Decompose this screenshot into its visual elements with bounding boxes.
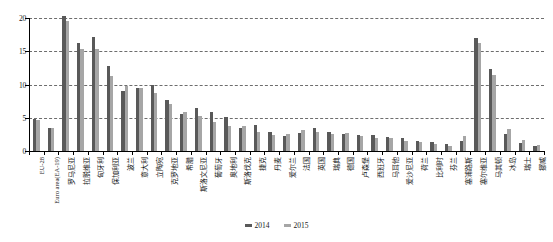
bar-group: [338, 18, 353, 151]
bar-2015: [507, 129, 510, 151]
bar-group: [147, 18, 162, 151]
bar-2015: [537, 145, 540, 151]
bar-group: [191, 18, 206, 151]
bar-2015: [36, 120, 39, 151]
x-axis-tick-mark: [161, 151, 162, 155]
x-axis-label: 捷克: [260, 157, 267, 171]
x-axis-label: 爱尔兰: [290, 157, 297, 178]
bar-2015: [80, 49, 83, 151]
x-axis-tick-mark: [412, 151, 413, 155]
bar-2015: [419, 142, 422, 151]
bar-2015: [125, 86, 128, 151]
x-axis-tick-mark: [279, 151, 280, 155]
x-axis-label: 葡萄牙: [216, 157, 223, 178]
y-axis-tick-label: 20: [6, 14, 26, 23]
x-axis-tick-mark: [235, 151, 236, 155]
bar-2015: [51, 128, 54, 151]
legend-swatch-icon: [284, 224, 291, 227]
bar-2015: [286, 134, 289, 151]
x-axis-tick-mark: [147, 151, 148, 155]
chart-legend: 20142015: [0, 221, 553, 230]
x-axis-tick-mark: [367, 151, 368, 155]
legend-label: 2015: [294, 221, 309, 230]
bar-group: [88, 18, 103, 151]
x-axis-label: 立陶宛: [157, 157, 164, 178]
x-axis-label: 克罗地亚: [172, 157, 179, 185]
bar-2015: [316, 132, 319, 151]
bar-group: [294, 18, 309, 151]
x-axis-tick-mark: [250, 151, 251, 155]
x-axis-label: 德国: [348, 157, 355, 171]
x-axis-tick-mark: [397, 151, 398, 155]
bar-group: [353, 18, 368, 151]
bar-group: [103, 18, 118, 151]
bar-group: [367, 18, 382, 151]
x-axis-tick-mark: [58, 151, 59, 155]
bar-group: [73, 18, 88, 151]
bar-group: [515, 18, 530, 151]
bar-group: [456, 18, 471, 151]
x-axis-label: 塞浦路斯: [466, 157, 473, 185]
x-axis-label: 挪威: [540, 157, 547, 171]
x-axis-tick-mark: [353, 151, 354, 155]
bar-2015: [522, 140, 525, 151]
x-axis-label: 马其顿: [496, 157, 503, 178]
bar-2015: [389, 138, 392, 151]
x-axis-label: EU-28: [39, 157, 46, 174]
bar-series-container: [29, 18, 544, 151]
x-axis-label: 波兰: [128, 157, 135, 171]
bar-group: [206, 18, 221, 151]
bar-2015: [139, 88, 142, 151]
legend-item[interactable]: 2014: [245, 221, 270, 230]
bar-2015: [95, 49, 98, 151]
x-axis-label: 保加利亚: [113, 157, 120, 185]
x-axis-tick-mark: [44, 151, 45, 155]
x-axis-label: 比利时: [437, 157, 444, 178]
legend-swatch-icon: [245, 224, 252, 227]
x-axis-label: 法国: [304, 157, 311, 171]
x-axis-tick-mark: [29, 151, 30, 155]
bar-group: [235, 18, 250, 151]
x-axis-tick-mark: [382, 151, 383, 155]
bar-2015: [492, 75, 495, 151]
bar-group: [132, 18, 147, 151]
bar-2015: [228, 126, 231, 151]
bar-group: [44, 18, 59, 151]
bar-group: [397, 18, 412, 151]
x-axis-line: [29, 151, 544, 152]
x-axis-tick-mark: [88, 151, 89, 155]
x-axis-label: 芬兰: [451, 157, 458, 171]
bar-2015: [375, 138, 378, 151]
x-axis-labels: EU-28Euro area(EA-19)罗马尼亚拉脱维亚匈牙利保加利亚波兰意大…: [29, 157, 544, 219]
bar-2015: [66, 21, 69, 151]
y-axis-tick-label: 0: [6, 147, 26, 156]
x-axis-label: 斯洛伐克: [245, 157, 252, 185]
bar-group: [441, 18, 456, 151]
y-axis-tick-label: 15: [6, 47, 26, 56]
x-axis-label: Euro area(EA-19): [54, 157, 61, 204]
x-axis-tick-mark: [529, 151, 530, 155]
x-axis-tick-mark: [309, 151, 310, 155]
x-axis-tick-mark: [456, 151, 457, 155]
bar-2015: [169, 104, 172, 151]
bar-group: [382, 18, 397, 151]
bar-2015: [183, 112, 186, 151]
bar-2015: [478, 43, 481, 151]
x-axis-tick-mark: [176, 151, 177, 155]
x-axis-tick-mark: [323, 151, 324, 155]
bar-2015: [257, 132, 260, 151]
x-axis-tick-mark: [470, 151, 471, 155]
bar-group: [250, 18, 265, 151]
x-axis-tick-mark: [264, 151, 265, 155]
bar-group: [529, 18, 544, 151]
bar-2015: [331, 134, 334, 151]
legend-item[interactable]: 2015: [284, 221, 309, 230]
x-axis-label: 奥地利: [231, 157, 238, 178]
x-axis-tick-mark: [206, 151, 207, 155]
bar-group: [485, 18, 500, 151]
x-axis-tick-mark: [515, 151, 516, 155]
bar-group: [323, 18, 338, 151]
x-axis-label: 爱沙尼亚: [407, 157, 414, 185]
bar-group: [412, 18, 427, 151]
bar-chart: 05101520 EU-28Euro area(EA-19)罗马尼亚拉脱维亚匈牙…: [0, 0, 553, 242]
